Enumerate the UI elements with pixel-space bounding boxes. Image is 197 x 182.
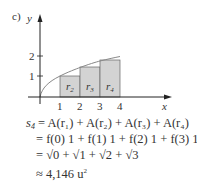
y-tick-label-1: 1 <box>29 70 35 82</box>
x-tick-label-1: 1 <box>57 100 63 112</box>
sqrt-sum-expression: = √0 + √1 + √2 + √3 <box>36 148 139 162</box>
equation-line-3: = √0 + √1 + √2 + √3 <box>36 148 139 162</box>
y-tick-label-2: 2 <box>29 50 35 62</box>
function-sum-expression: = f(0) 1 + f(1) 1 + f(2) 1 + f(3) 1 <box>36 132 197 146</box>
x-tick-label-3: 3 <box>97 100 103 112</box>
riemann-sum-figure: c) y 1 2 1 2 3 4 x r2 r3 r4 <box>0 0 197 112</box>
equation-line-2: = f(0) 1 + f(1) 1 + f(2) 1 + f(3) 1 <box>36 132 197 146</box>
y-axis-label: y <box>26 12 32 24</box>
area-sum-expression: = A(r₁) + A(r₂) + A(r₃) + A(r₄) <box>35 116 189 130</box>
x-axis-arrow <box>164 95 172 100</box>
x-axis-label: x <box>161 100 167 112</box>
label-c: c) <box>12 10 21 23</box>
unit-exponent: 2 <box>84 167 88 175</box>
equation-line-4: ≈ 4,146 u2 <box>36 164 87 181</box>
x-tick-label-2: 2 <box>77 100 83 112</box>
approx-result: ≈ 4,146 u <box>36 167 84 181</box>
y-axis-arrow <box>38 14 43 22</box>
x-tick-label-4: 4 <box>117 100 123 112</box>
